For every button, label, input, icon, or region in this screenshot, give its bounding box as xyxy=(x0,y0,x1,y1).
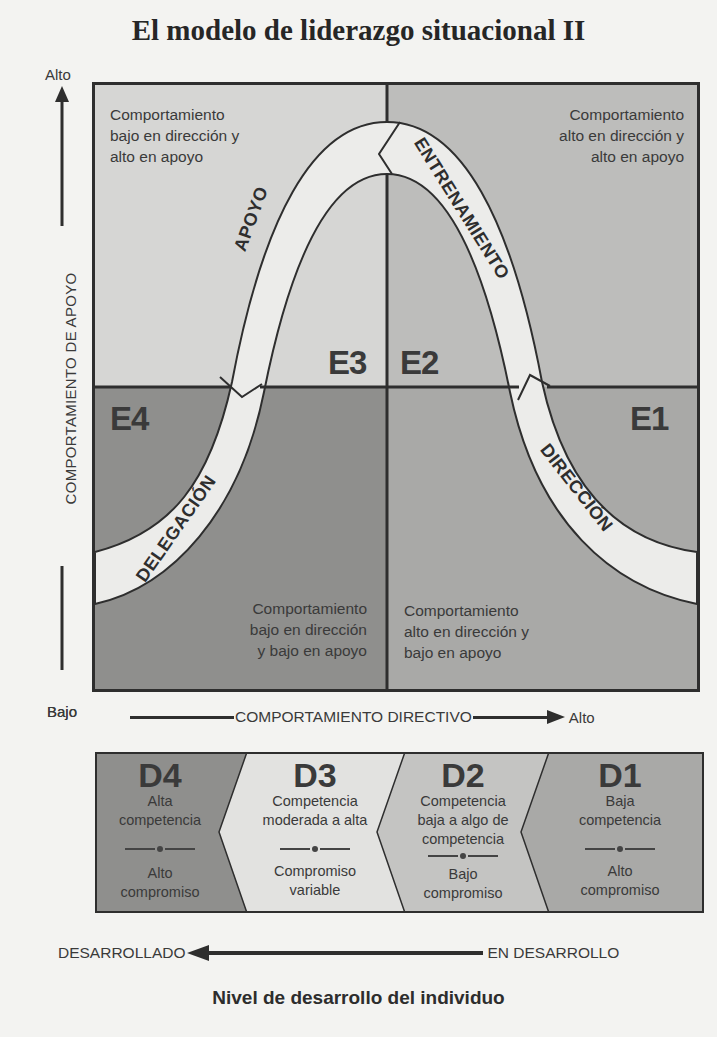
level-d1-competence: Baja competencia xyxy=(545,792,695,830)
x-axis-high-label: Alto xyxy=(569,709,595,726)
quadrant-e1-label: E1 xyxy=(630,400,668,438)
level-d3-label: D3 xyxy=(240,758,390,792)
x-axis: COMPORTAMIENTO DIRECTIVO Alto xyxy=(130,705,690,729)
x-axis-arrow-icon xyxy=(547,710,565,724)
situational-leadership-grid: Comportamiento bajo en dirección y alto … xyxy=(92,82,700,692)
y-axis-arrow-icon xyxy=(55,86,69,226)
level-d1-commitment: Alto compromiso xyxy=(545,862,695,900)
quadrant-e4-label: E4 xyxy=(110,400,148,438)
quadrant-e1-description: Comportamiento alto en dirección y bajo … xyxy=(404,600,529,663)
level-d2-competence: Competencia baja a algo de competencia xyxy=(393,792,533,849)
level-d3: D3 Competencia moderada a alta Compromis… xyxy=(240,758,390,900)
separator-icon xyxy=(545,842,695,856)
x-axis-label: COMPORTAMIENTO DIRECTIVO xyxy=(234,708,473,726)
y-axis-line xyxy=(60,566,64,670)
development-axis-title: Nivel de desarrollo del individuo xyxy=(0,987,717,1009)
level-d2-label: D2 xyxy=(393,758,533,792)
development-axis-line xyxy=(209,951,483,955)
development-axis: DESARROLLADO EN DESARROLLO xyxy=(58,942,678,964)
level-d4-competence: Alta competencia xyxy=(95,792,225,830)
y-axis-high-label: Alto xyxy=(45,66,71,83)
quadrant-e3-label: E3 xyxy=(328,344,366,382)
level-d4-label: D4 xyxy=(95,758,225,792)
level-d3-commitment: Compromiso variable xyxy=(240,862,390,900)
separator-icon xyxy=(240,842,390,856)
separator-icon xyxy=(393,849,533,863)
level-d1: D1 Baja competencia Alto compromiso xyxy=(545,758,695,900)
quadrant-e3-description: Comportamiento bajo en dirección y alto … xyxy=(110,104,239,167)
quadrant-e2-description: Comportamiento alto en dirección y alto … xyxy=(559,104,684,167)
level-d1-label: D1 xyxy=(545,758,695,792)
x-axis-low-label: Bajo xyxy=(47,703,77,720)
quadrant-grid-svg xyxy=(92,82,700,692)
level-d2-commitment: Bajo compromiso xyxy=(393,865,533,903)
level-d4: D4 Alta competencia Alto compromiso xyxy=(95,758,225,902)
level-d3-competence: Competencia moderada a alta xyxy=(240,792,390,830)
separator-icon xyxy=(95,842,225,856)
level-d4-commitment: Alto compromiso xyxy=(95,864,225,902)
x-axis-line-right xyxy=(473,716,547,719)
quadrant-e2-label: E2 xyxy=(400,344,438,382)
development-levels-bar: D4 Alta competencia Alto compromiso D3 C… xyxy=(95,752,704,913)
page-title: El modelo de liderazgo situacional II xyxy=(0,14,717,47)
development-axis-right-label: EN DESARROLLO xyxy=(487,944,619,962)
quadrant-e4-description: Comportamiento bajo en dirección y bajo … xyxy=(207,598,367,661)
y-axis-label: COMPORTAMIENTO DE APOYO xyxy=(62,259,79,519)
level-d2: D2 Competencia baja a algo de competenci… xyxy=(393,758,533,903)
development-axis-arrow-icon xyxy=(187,945,209,961)
x-axis-line-left xyxy=(130,716,234,719)
development-axis-left-label: DESARROLLADO xyxy=(58,944,185,962)
